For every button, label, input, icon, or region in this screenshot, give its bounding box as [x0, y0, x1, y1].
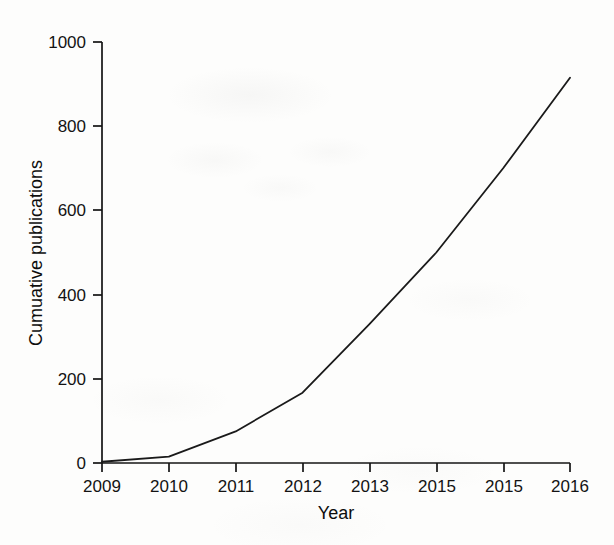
data-line-cumulative-publications [102, 78, 570, 462]
x-tick-label-7: 2016 [551, 477, 589, 496]
y-tick-label-800: 800 [58, 117, 86, 136]
y-tick-label-600: 600 [58, 201, 86, 220]
figure-container: 1000 800 600 400 200 0 Cumuative publica… [0, 0, 614, 545]
x-axis-title: Year [318, 503, 354, 523]
x-tick-label-5: 2015 [418, 477, 456, 496]
y-axis: 1000 800 600 400 200 0 Cumuative publica… [26, 33, 102, 473]
x-tick-label-3: 2012 [284, 477, 322, 496]
y-tick-label-400: 400 [58, 286, 86, 305]
y-tick-label-200: 200 [58, 370, 86, 389]
line-chart: 1000 800 600 400 200 0 Cumuative publica… [0, 0, 614, 545]
x-axis: 2009 2010 2011 2012 2013 2015 2015 2016 … [83, 463, 589, 523]
x-tick-label-1: 2010 [150, 477, 188, 496]
y-tick-label-0: 0 [77, 454, 86, 473]
y-axis-title: Cumuative publications [26, 160, 46, 346]
x-tick-label-4: 2013 [351, 477, 389, 496]
x-tick-label-6: 2015 [485, 477, 523, 496]
y-tick-label-1000: 1000 [48, 33, 86, 52]
x-tick-label-2: 2011 [218, 477, 255, 496]
x-tick-label-0: 2009 [83, 477, 121, 496]
